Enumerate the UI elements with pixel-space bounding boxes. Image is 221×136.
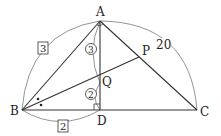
AQ-ratio: 3 <box>88 45 94 55</box>
segment-AC <box>100 21 197 110</box>
AC-length: 20 <box>156 38 171 52</box>
label-C: C <box>200 105 209 119</box>
label-A: A <box>95 5 105 19</box>
AB-length: 3 <box>40 43 46 54</box>
label-D: D <box>97 114 107 128</box>
angle-dot-1 <box>37 98 40 101</box>
QD-ratio: 2 <box>88 90 94 100</box>
label-B: B <box>10 104 19 118</box>
label-P: P <box>142 44 150 58</box>
BD-length: 2 <box>60 121 66 132</box>
segment-BP <box>22 57 139 110</box>
geometry-diagram: A B C D P Q 3 2 3 2 20 <box>0 0 221 136</box>
angle-dot-2 <box>40 104 43 107</box>
label-Q: Q <box>102 75 112 89</box>
